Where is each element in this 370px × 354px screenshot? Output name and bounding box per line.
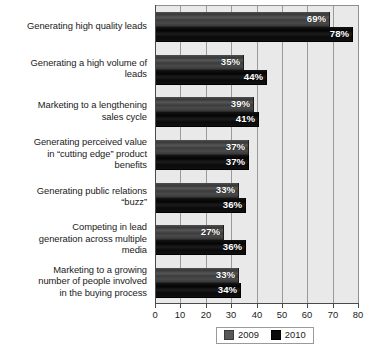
category-axis-labels: Generating high quality leadsGenerating … — [0, 5, 150, 303]
legend-label-2010: 2010 — [285, 330, 306, 340]
category-label-line: Generating a high volume of — [0, 57, 147, 69]
bar-value-label: 41% — [236, 114, 255, 124]
bar-value-label: 34% — [218, 285, 237, 295]
black-square-swatch-icon — [271, 330, 281, 340]
category-label-line: Marketing to a growing — [0, 264, 147, 276]
category-label-5: Generating public relations“buzz” — [0, 185, 147, 208]
tick-mark-70 — [333, 304, 334, 308]
bar-value-label: 44% — [244, 72, 263, 82]
bar-2010-cat2: 44% — [155, 70, 267, 85]
plot-inner: 69%35%39%37%33%27%33%78%44%41%37%36%36%3… — [155, 6, 358, 304]
category-label-line: Generating high quality leads — [0, 20, 147, 32]
category-label-line: Generating public relations — [0, 185, 147, 197]
bar-2009-cat2: 35% — [155, 55, 244, 70]
category-label-line: generation across multiple — [0, 233, 147, 245]
bar-2009-cat6: 27% — [155, 225, 224, 240]
bar-value-label: 27% — [201, 227, 220, 237]
gridline-60 — [307, 6, 308, 304]
category-label-line: Competing in lead — [0, 221, 147, 233]
chart-legend: 2009 2010 — [216, 327, 314, 344]
horizontal-grouped-bar-chart: Generating high quality leadsGenerating … — [0, 0, 370, 354]
tick-mark-0 — [155, 304, 156, 308]
gridline-50 — [282, 6, 283, 304]
category-label-4: Generating perceived valuein “cutting ed… — [0, 136, 147, 171]
plot-area: 69%35%39%37%33%27%33%78%44%41%37%36%36%3… — [155, 5, 359, 304]
category-label-7: Marketing to a growingnumber of people i… — [0, 264, 147, 299]
bar-value-label: 36% — [223, 200, 242, 210]
bar-value-label: 78% — [330, 29, 349, 39]
bar-value-label: 69% — [307, 14, 326, 24]
bar-2009-cat5: 33% — [155, 183, 239, 198]
gray-square-swatch-icon — [224, 330, 234, 340]
legend-label-2009: 2009 — [238, 330, 259, 340]
category-label-line: leads — [0, 68, 147, 80]
category-label-line: sales cycle — [0, 111, 147, 123]
bar-2009-cat1: 69% — [155, 12, 330, 27]
bar-2010-cat6: 36% — [155, 240, 246, 255]
y-axis-line — [155, 5, 156, 304]
bar-2009-cat7: 33% — [155, 268, 239, 283]
category-label-3: Marketing to a lengtheningsales cycle — [0, 99, 147, 122]
category-label-2: Generating a high volume ofleads — [0, 57, 147, 80]
bar-2010-cat4: 37% — [155, 155, 249, 170]
gridline-70 — [333, 6, 334, 304]
category-label-line: media — [0, 244, 147, 256]
bar-value-label: 35% — [221, 57, 240, 67]
tick-mark-60 — [307, 304, 308, 308]
category-label-line: “buzz” — [0, 196, 147, 208]
bar-value-label: 37% — [226, 142, 245, 152]
tick-label-80: 80 — [343, 309, 370, 320]
bar-2009-cat4: 37% — [155, 140, 249, 155]
bar-value-label: 33% — [216, 270, 235, 280]
bar-2009-cat3: 39% — [155, 97, 254, 112]
tick-mark-40 — [257, 304, 258, 308]
tick-mark-30 — [231, 304, 232, 308]
category-label-line: Generating perceived value — [0, 136, 147, 148]
bar-2010-cat7: 34% — [155, 283, 241, 298]
bar-value-label: 37% — [226, 157, 245, 167]
bar-value-label: 36% — [223, 242, 242, 252]
tick-mark-20 — [206, 304, 207, 308]
bar-2010-cat1: 78% — [155, 27, 353, 42]
bar-value-label: 33% — [216, 185, 235, 195]
gridline-40 — [257, 6, 258, 304]
bar-2010-cat5: 36% — [155, 198, 246, 213]
category-label-line: number of people involved — [0, 275, 147, 287]
legend-entry-2009: 2009 — [224, 330, 259, 340]
tick-mark-80 — [358, 304, 359, 308]
category-label-line: in the buying process — [0, 287, 147, 299]
bar-2010-cat3: 41% — [155, 112, 259, 127]
category-label-line: Marketing to a lengthening — [0, 99, 147, 111]
category-label-6: Competing in leadgeneration across multi… — [0, 221, 147, 256]
tick-mark-50 — [282, 304, 283, 308]
tick-mark-10 — [180, 304, 181, 308]
bar-value-label: 39% — [231, 99, 250, 109]
category-label-line: in “cutting edge” product — [0, 148, 147, 160]
legend-entry-2010: 2010 — [271, 330, 306, 340]
category-label-line: benefits — [0, 159, 147, 171]
category-label-1: Generating high quality leads — [0, 20, 147, 32]
